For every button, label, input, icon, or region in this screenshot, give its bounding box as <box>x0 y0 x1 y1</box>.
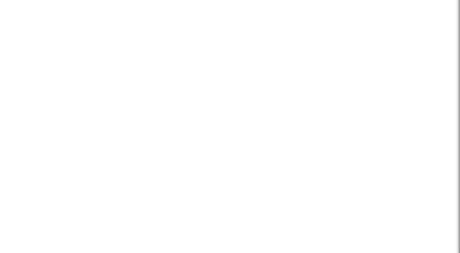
rotor-stack-diagram <box>0 0 460 253</box>
diagram-canvas <box>0 0 460 253</box>
